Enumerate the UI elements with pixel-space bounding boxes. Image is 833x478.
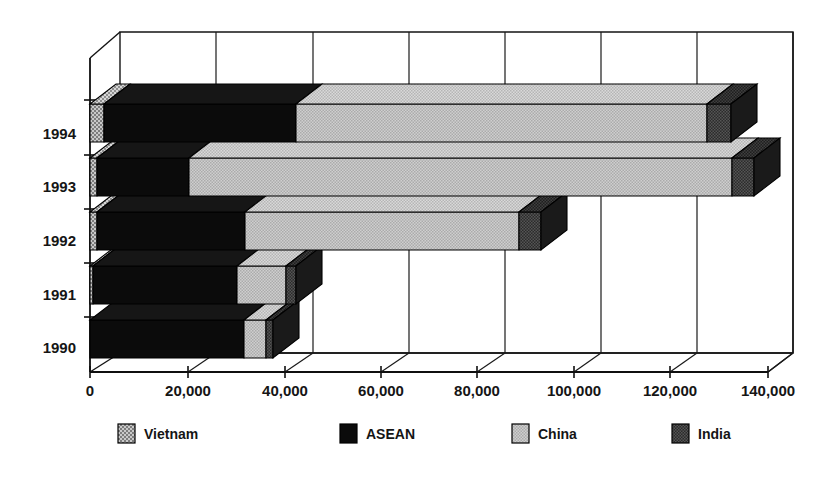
bar-segment-1992-india	[519, 212, 541, 250]
bar-segment-1994-china-top	[296, 84, 733, 104]
bar-1990	[90, 300, 299, 358]
gridlines-floor	[188, 353, 793, 372]
bar-1993	[90, 138, 780, 196]
bar-1991	[90, 246, 322, 304]
y-tick-label-1993: 1993	[43, 178, 76, 195]
bar-segment-1993-asean	[97, 158, 189, 196]
bar-1994	[90, 84, 757, 142]
x-tick-label-2: 40,000	[262, 382, 308, 399]
legend-label-asean: ASEAN	[366, 426, 415, 442]
x-tick-label-6: 120,000	[643, 382, 697, 399]
legend-swatch-china-icon	[512, 424, 529, 443]
x-tick-label-5: 100,000	[547, 382, 601, 399]
x-tick-label-3: 60,000	[358, 382, 404, 399]
bar-segment-1990-china	[244, 320, 266, 358]
bar-chart-3d: 0 20,000 40,000 60,000 80,000 100,000 12…	[0, 0, 833, 478]
bar-segment-1992-vietnam	[90, 212, 97, 250]
bar-segment-1994-india	[707, 104, 731, 142]
chart-container: 0 20,000 40,000 60,000 80,000 100,000 12…	[0, 0, 833, 478]
bar-segment-1993-china	[189, 158, 732, 196]
y-axis-category-labels: 1994 1993 1992 1991 1990	[43, 125, 77, 356]
y-tick-label-1990: 1990	[43, 339, 76, 356]
bar-segment-1990-asean	[90, 320, 244, 358]
x-tick-label-0: 0	[86, 382, 94, 399]
bar-segment-1994-china	[296, 104, 707, 142]
x-tick-label-7: 140,000	[741, 382, 795, 399]
bar-segment-1991-asean	[93, 266, 237, 304]
legend-label-vietnam: Vietnam	[144, 426, 198, 442]
bar-segment-1994-asean	[104, 104, 296, 142]
bar-segment-1993-india	[732, 158, 754, 196]
x-axis-tick-labels: 0 20,000 40,000 60,000 80,000 100,000 12…	[86, 382, 795, 399]
y-tick-label-1994: 1994	[43, 125, 77, 142]
y-tick-label-1992: 1992	[43, 232, 76, 249]
y-tick-label-1991: 1991	[43, 286, 76, 303]
legend-swatch-asean-icon	[340, 424, 357, 443]
legend-label-china: China	[538, 426, 577, 442]
x-tick-label-1: 20,000	[165, 382, 211, 399]
legend-label-india: India	[698, 426, 731, 442]
bar-segment-1991-india	[286, 266, 296, 304]
chart-legend: Vietnam ASEAN China India	[118, 424, 731, 443]
depth-edge-top-left	[90, 32, 120, 58]
bar-segment-1992-asean	[97, 212, 245, 250]
x-tick-label-4: 80,000	[454, 382, 500, 399]
bar-segment-1994-vietnam	[90, 104, 104, 142]
legend-swatch-vietnam-icon	[118, 424, 135, 443]
bar-1992	[90, 192, 567, 250]
legend-swatch-india-icon	[672, 424, 689, 443]
bar-segment-1991-china	[237, 266, 286, 304]
bar-segment-1990-india	[266, 320, 273, 358]
bar-segment-1994-asean-top	[104, 84, 322, 104]
bar-segment-1992-china	[245, 212, 519, 250]
bar-segment-1993-vietnam	[90, 158, 97, 196]
